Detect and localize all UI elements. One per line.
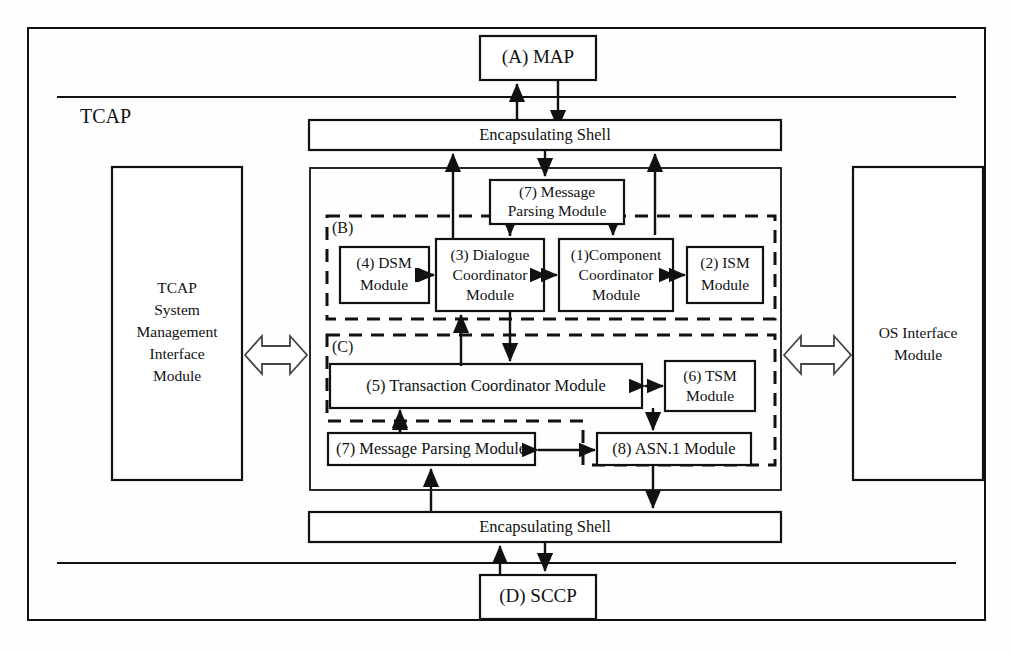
module-ism-line2: Module bbox=[701, 276, 749, 293]
block-shell-bottom: Encapsulating Shell bbox=[309, 512, 781, 542]
tcap-sysmgmt-line4: Interface bbox=[149, 345, 204, 362]
module-msg-parsing-top: (7) Message Parsing Module bbox=[490, 180, 624, 224]
module-transaction-label: (5) Transaction Coordinator Module bbox=[366, 376, 606, 395]
module-component-line1: (1)Component bbox=[571, 246, 662, 264]
module-dsm-line1: (4) DSM bbox=[356, 254, 412, 272]
block-map-label: (A) MAP bbox=[502, 46, 574, 68]
tcap-sysmgmt-line1: TCAP bbox=[157, 279, 197, 296]
module-component-line3: Module bbox=[592, 286, 640, 303]
region-b-tag: (B) bbox=[332, 219, 353, 237]
module-ism: (2) ISM Module bbox=[687, 247, 763, 303]
block-shell-top: Encapsulating Shell bbox=[309, 120, 781, 150]
module-dsm-line2: Module bbox=[360, 276, 408, 293]
region-c-tag: (C) bbox=[332, 338, 353, 356]
module-transaction-coordinator: (5) Transaction Coordinator Module bbox=[330, 364, 642, 408]
module-msg-parsing-bottom: (7) Message Parsing Module bbox=[328, 433, 535, 465]
block-os-interface: OS Interface Module bbox=[853, 167, 983, 480]
module-tsm: (6) TSM Module bbox=[665, 361, 755, 411]
module-asn1-label: (8) ASN.1 Module bbox=[612, 439, 735, 458]
module-dialogue-line3: Module bbox=[466, 286, 514, 303]
tcap-architecture-diagram: TCAP (A) MAP Encapsulating Shell (B) bbox=[0, 0, 1013, 653]
module-msg-parsing-top-line1: (7) Message bbox=[519, 183, 595, 201]
module-msg-parsing-bottom-label: (7) Message Parsing Module bbox=[336, 439, 526, 458]
block-sccp-label: (D) SCCP bbox=[499, 585, 577, 607]
hollow-arrow-left bbox=[245, 336, 307, 374]
module-component-coordinator: (1)Component Coordinator Module bbox=[559, 239, 673, 311]
module-msg-parsing-top-line2: Parsing Module bbox=[508, 202, 607, 219]
diagram-canvas: TCAP (A) MAP Encapsulating Shell (B) bbox=[0, 0, 1013, 653]
module-tsm-line1: (6) TSM bbox=[683, 367, 737, 385]
hollow-arrow-right bbox=[784, 336, 851, 374]
module-asn1: (8) ASN.1 Module bbox=[597, 433, 751, 465]
tcap-layer-label: TCAP bbox=[80, 105, 131, 127]
shell-top-label: Encapsulating Shell bbox=[479, 125, 611, 144]
tcap-sysmgmt-line5: Module bbox=[153, 367, 201, 384]
tcap-sysmgmt-line3: Management bbox=[137, 323, 219, 340]
module-dialogue-line1: (3) Dialogue bbox=[451, 246, 530, 264]
shell-bottom-label: Encapsulating Shell bbox=[479, 517, 611, 536]
module-component-line2: Coordinator bbox=[579, 266, 655, 283]
os-interface-line1: OS Interface bbox=[879, 324, 958, 341]
module-dsm: (4) DSM Module bbox=[340, 247, 429, 303]
module-tsm-line2: Module bbox=[686, 387, 734, 404]
module-dialogue-line2: Coordinator bbox=[453, 266, 529, 283]
block-tcap-system-management: TCAP System Management Interface Module bbox=[112, 167, 242, 480]
module-dialogue-coordinator: (3) Dialogue Coordinator Module bbox=[436, 239, 544, 311]
os-interface-line2: Module bbox=[894, 346, 942, 363]
tcap-sysmgmt-line2: System bbox=[154, 301, 200, 318]
block-sccp: (D) SCCP bbox=[480, 575, 596, 619]
block-map: (A) MAP bbox=[480, 36, 596, 80]
module-ism-line1: (2) ISM bbox=[700, 254, 750, 272]
